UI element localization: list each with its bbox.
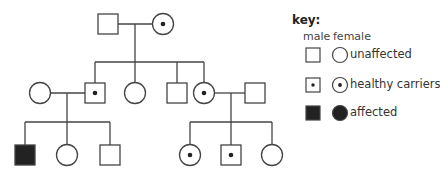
key-label-carrier: healthy carriers [350,77,440,91]
connector-lines [25,24,272,145]
individual-II-4-male-unaffected [167,83,187,103]
key-label-affected: affected [350,105,397,119]
key-symbols [306,48,348,121]
individual-II-6-male-unaffected [245,83,265,103]
individual-III-5-male-carrier [221,145,241,165]
individual-II-2-male-carrier [85,83,105,103]
individual-III-2-female-unaffected [57,145,78,166]
individual-I-2-female-carrier [153,14,174,35]
carrier-dot-icon [202,91,207,96]
individual-II-5-female-carrier [194,83,215,104]
individuals [15,14,283,166]
carrier-dot-icon [93,91,98,96]
key-female-header: female [333,30,371,43]
key-male-affected-icon [306,106,320,120]
individual-III-4-female-carrier [180,145,201,166]
individual-II-3-female-unaffected [125,83,146,104]
individual-III-3-male-unaffected [100,145,120,165]
key-title: key: [292,13,320,27]
carrier-dot-icon [161,22,166,27]
key-female-unaffected-icon [333,48,348,63]
key-male-header: male [303,30,330,43]
carrier-dot-icon [229,153,234,158]
key-label-unaffected: unaffected [350,47,412,61]
key-male-unaffected-icon [306,48,320,62]
carrier-dot-icon [188,153,193,158]
individual-III-6-female-unaffected [262,145,283,166]
individual-II-1-female-unaffected [30,83,51,104]
individual-I-1-male-unaffected [98,14,118,34]
key-female-affected-icon [333,106,348,121]
individual-III-1-male-affected [15,145,35,165]
